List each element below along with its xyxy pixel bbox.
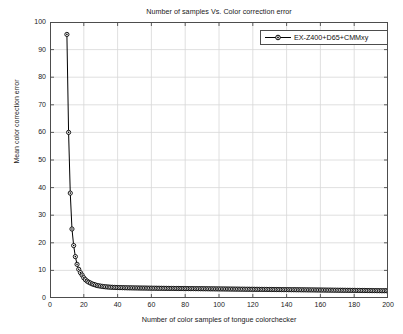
x-tick-label: 180 — [339, 301, 369, 309]
x-tick-label: 80 — [170, 301, 200, 309]
series-markers-1 — [65, 32, 388, 293]
y-tick-label: 90 — [20, 46, 46, 54]
y-tick-label: 40 — [20, 184, 46, 192]
legend-line-marker-icon — [265, 33, 291, 42]
y-tick-label: 50 — [20, 156, 46, 164]
chart-title: Number of samples Vs. Color correction e… — [50, 7, 388, 16]
y-tick-label: 100 — [20, 18, 46, 26]
x-tick-label: 0 — [35, 301, 65, 309]
x-axis-label: Number of color samples of tongue colorc… — [50, 315, 388, 324]
x-tick-label: 60 — [136, 301, 166, 309]
y-tick-label: 20 — [20, 239, 46, 247]
legend-label: EX-Z400+D65+CMMxy — [294, 33, 368, 42]
chart-figure: Number of samples Vs. Color correction e… — [0, 0, 403, 334]
x-tick-label: 120 — [238, 301, 268, 309]
plot-area — [50, 22, 388, 298]
plot-svg — [50, 22, 388, 298]
y-tick-label: 30 — [20, 211, 46, 219]
y-tick-label: 60 — [20, 128, 46, 136]
x-tick-label: 20 — [69, 301, 99, 309]
y-axis-label: Mean color correction error — [13, 32, 20, 212]
x-tick-label: 100 — [204, 301, 234, 309]
legend: EX-Z400+D65+CMMxy — [260, 30, 388, 45]
y-tick-label: 80 — [20, 73, 46, 81]
gridlines — [50, 22, 388, 298]
x-tick-label: 200 — [373, 301, 403, 309]
x-tick-label: 140 — [272, 301, 302, 309]
x-tick-label: 40 — [103, 301, 133, 309]
legend-entry-series-1: EX-Z400+D65+CMMxy — [265, 33, 368, 42]
y-tick-label: 70 — [20, 101, 46, 109]
y-tick-label: 10 — [20, 266, 46, 274]
series-line-1 — [67, 34, 388, 290]
x-tick-label: 160 — [305, 301, 335, 309]
